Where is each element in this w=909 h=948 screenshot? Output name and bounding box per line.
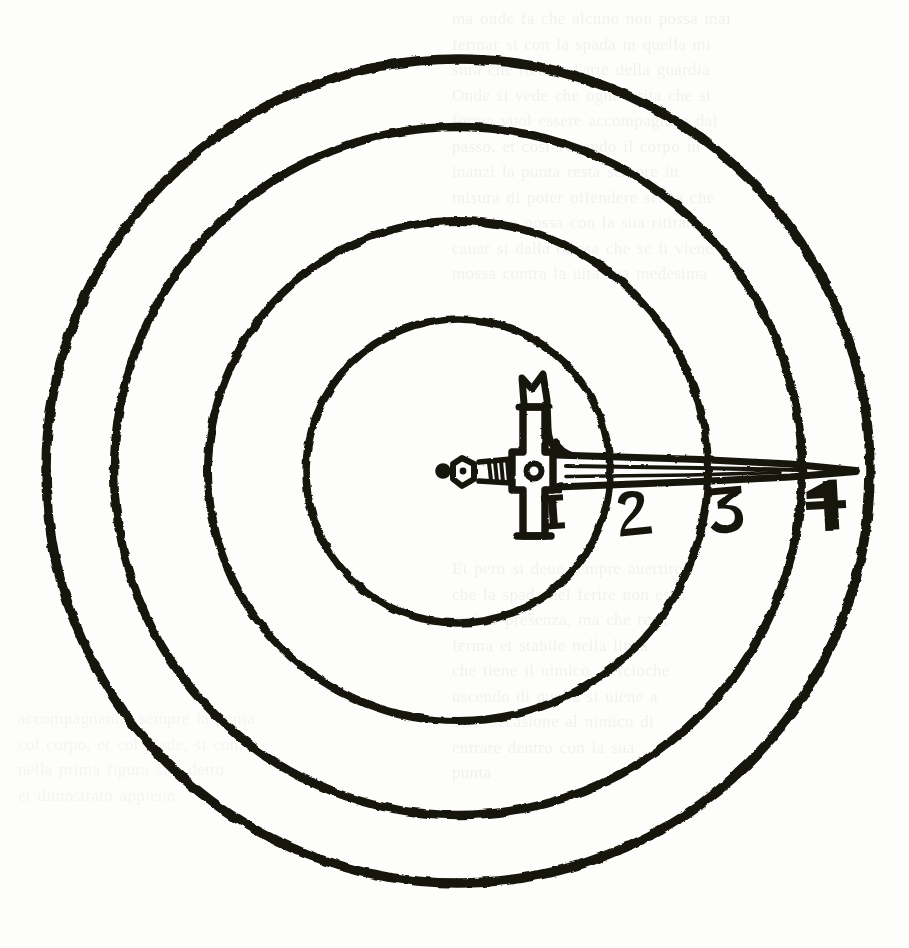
ring-1: [306, 319, 610, 623]
pommel-button: [435, 463, 451, 479]
numeral-4: [805, 479, 848, 532]
numeral-3: [707, 486, 745, 535]
ring-3: [114, 127, 802, 815]
numeral-2: [616, 489, 652, 536]
ring-2: [208, 221, 708, 721]
pommel-eye: [460, 468, 467, 475]
diagram-canvas: [0, 0, 909, 948]
sword-side-hook: [522, 374, 576, 456]
sword-pommel: [435, 458, 474, 486]
guard-boss: [527, 464, 542, 479]
plate-page: ma onde fa che alcuno non possa mai ferm…: [0, 0, 909, 948]
sword-grip: [479, 459, 512, 483]
